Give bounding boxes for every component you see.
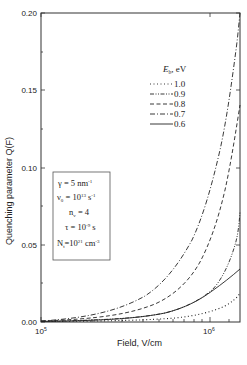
legend-label: 0.8 bbox=[174, 99, 186, 109]
parameter-box: γ = 5 nm-1 ν0 = 1013 s-1 nv = 4 τ = 10-9… bbox=[53, 172, 110, 260]
y-tick-label: 0.05 bbox=[21, 241, 37, 250]
y-tick-label: 0.10 bbox=[21, 164, 37, 173]
legend-label: 0.9 bbox=[174, 89, 186, 99]
legend-label: 0.6 bbox=[174, 119, 186, 129]
plot-frame bbox=[41, 13, 240, 322]
y-tick-label: 0.20 bbox=[21, 9, 37, 18]
x-tick-label: 105 bbox=[35, 326, 47, 336]
param-gamma: γ = 5 nm-1 bbox=[57, 178, 93, 188]
legend-label: 1.0 bbox=[174, 79, 186, 89]
y-tick-label: 0.15 bbox=[21, 86, 37, 95]
legend-title: Eb, eV bbox=[162, 64, 187, 75]
param-nv: nv = 4 bbox=[69, 207, 90, 218]
x-tick-label: 106 bbox=[203, 326, 215, 336]
x-axis-title: Field, V/cm bbox=[117, 338, 162, 348]
param-tau: τ = 10-9 s bbox=[65, 222, 96, 232]
legend-label: 0.7 bbox=[174, 109, 186, 119]
y-tick-label: 0.00 bbox=[21, 318, 37, 327]
quenching-chart: 0.20 0.15 0.10 0.05 0.00 105 106 Field, … bbox=[0, 0, 247, 365]
param-nu0: ν0 = 1013 s-1 bbox=[57, 192, 96, 203]
y-axis-title: Quenching parameter Q(F) bbox=[4, 137, 14, 245]
